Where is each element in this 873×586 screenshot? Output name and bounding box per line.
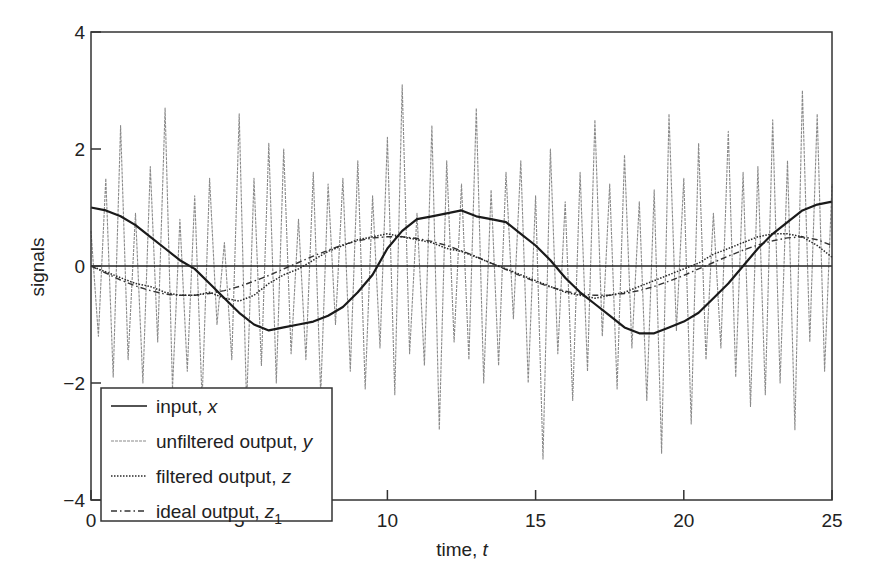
x-tick-label: 25 [821, 510, 842, 531]
x-axis-label: time, t [436, 539, 488, 560]
x-tick-label: 20 [673, 510, 694, 531]
x-tick-label: 15 [525, 510, 546, 531]
y-tick-label: 0 [74, 256, 85, 277]
y-tick-label: −2 [63, 373, 85, 394]
series-input [91, 202, 832, 334]
legend-item-label: unfiltered output, y [156, 431, 314, 452]
legend: input, xunfiltered output, yfiltered out… [101, 388, 332, 527]
legend-item-label: ideal output, z1 [156, 501, 282, 527]
x-tick-label: 0 [86, 510, 97, 531]
legend-item-label: input, x [156, 396, 219, 417]
x-axis-label-var: t [483, 539, 489, 560]
legend-item-label: filtered output, z [156, 466, 292, 487]
y-axis-label: signals [27, 237, 48, 296]
x-axis-label-text: time, [436, 539, 482, 560]
y-tick-label: −4 [63, 490, 85, 511]
chart: 0510152025−4−2024 signals time, t input,… [0, 0, 873, 586]
y-tick-label: 4 [74, 22, 85, 43]
y-tick-label: 2 [74, 139, 85, 160]
x-tick-label: 10 [377, 510, 398, 531]
